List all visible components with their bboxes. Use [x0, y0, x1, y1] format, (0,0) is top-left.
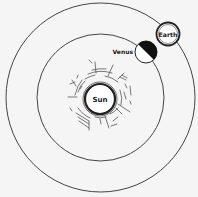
venus-phase-diagram: Sun Venus Earth: [0, 0, 198, 197]
diagram-canvas: Sun Venus Earth: [0, 0, 198, 197]
sun: Sun: [83, 82, 117, 116]
venus-label: Venus: [113, 48, 134, 55]
earth: Earth: [157, 23, 180, 46]
earth-label: Earth: [159, 31, 178, 38]
sun-label: Sun: [92, 96, 107, 104]
